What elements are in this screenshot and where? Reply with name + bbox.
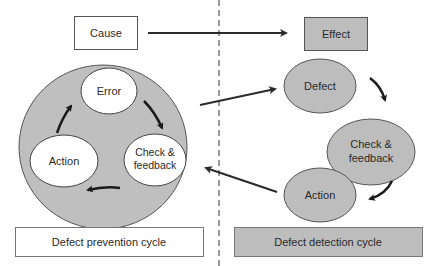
prevention-to-defect-arrow	[200, 89, 275, 105]
effect-box: Effect	[305, 18, 368, 51]
defect-to-check-arrow	[370, 78, 385, 100]
detection-action-node: Action	[284, 168, 356, 222]
cause-box: Cause	[75, 17, 138, 50]
prevention-action-node: Action	[30, 135, 98, 187]
cause-label: Cause	[90, 27, 122, 39]
action-to-prevention-arrow	[206, 168, 277, 192]
prevention-feedback-label: feedback	[134, 159, 177, 171]
prevention-action-label: Action	[49, 155, 80, 167]
detection-defect-label: Defect	[304, 80, 336, 92]
effect-label: Effect	[322, 28, 350, 40]
detection-caption-box: Defect detection cycle	[235, 228, 423, 257]
detection-defect-node: Defect	[284, 59, 356, 113]
prevention-check-feedback-node: Check & feedback	[124, 134, 186, 186]
prevention-error-label: Error	[97, 85, 122, 97]
prevention-caption: Defect prevention cycle	[52, 236, 166, 248]
detection-caption: Defect detection cycle	[274, 236, 382, 248]
detection-check-label: Check &	[350, 138, 392, 150]
prevention-cycle: Error Check & feedback Action	[19, 65, 187, 229]
detection-feedback-label: feedback	[349, 152, 394, 164]
defect-cycles-diagram: Cause Effect Error Check & feedback Acti…	[0, 0, 437, 266]
prevention-check-label: Check &	[135, 146, 175, 158]
detection-action-label: Action	[305, 189, 336, 201]
prevention-caption-box: Defect prevention cycle	[16, 228, 204, 257]
prevention-error-node: Error	[81, 68, 137, 114]
